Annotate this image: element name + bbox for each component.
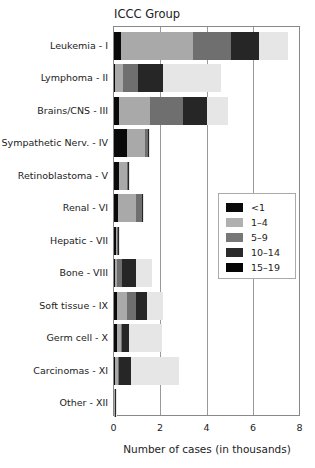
bar-segment: [114, 32, 121, 60]
bar-segment: [118, 194, 136, 222]
legend-label: 5–9: [251, 232, 268, 243]
chart-title: ICCC Group: [114, 7, 180, 21]
x-tick-label: 6: [250, 422, 256, 433]
bar-segment: [183, 97, 207, 125]
bar-row: [114, 389, 116, 417]
bar-segment: [136, 259, 152, 287]
y-axis-label: Soft tissue - IX: [39, 299, 108, 310]
bar-row: [114, 227, 120, 255]
bar-row: [114, 64, 221, 92]
bar-row: [114, 32, 288, 60]
bar-row: [114, 129, 150, 157]
bar-segment: [122, 259, 136, 287]
bar-row: [114, 324, 162, 352]
y-axis-label: Carcinomas - XI: [33, 364, 108, 375]
legend-item: <1: [226, 200, 295, 215]
legend-swatch: [226, 203, 243, 212]
bar-segment: [119, 357, 131, 385]
bar-segment: [122, 324, 129, 352]
y-axis-label: Sympathetic Nerv. - IV: [2, 137, 109, 148]
bar-segment: [127, 129, 146, 157]
bar-row: [114, 357, 179, 385]
y-axis-label: Bone - VIII: [59, 267, 108, 278]
bar-segment: [127, 292, 136, 320]
x-tick-label: 8: [296, 422, 302, 433]
bar-segment: [193, 32, 231, 60]
bar-row: [114, 162, 129, 190]
legend-label: 15–19: [251, 262, 280, 273]
bar-segment: [231, 32, 259, 60]
legend-swatch: [226, 218, 243, 227]
bar-segment: [114, 129, 127, 157]
y-axis-label: Renal - VI: [63, 202, 108, 213]
y-axis-label: Brains/CNS - III: [37, 104, 108, 115]
bar-row: [114, 97, 228, 125]
x-tick-label: 0: [110, 422, 116, 433]
y-axis-label: Hepatic - VII: [50, 234, 108, 245]
bar-row: [114, 259, 152, 287]
bar-segment: [150, 97, 183, 125]
bar-segment: [117, 292, 126, 320]
bar-segment: [259, 32, 288, 60]
bar-row: [114, 194, 144, 222]
legend-swatch: [226, 248, 243, 257]
legend-item: 10–14: [226, 245, 295, 260]
bar-segment: [119, 227, 120, 255]
legend-item: 5–9: [226, 230, 295, 245]
bar-segment: [119, 97, 150, 125]
bar-segment: [147, 292, 163, 320]
bar-segment: [131, 357, 179, 385]
x-tick-label: 4: [203, 422, 209, 433]
y-axis-label: Germ cell - X: [46, 332, 108, 343]
bar-segment: [136, 292, 146, 320]
legend-item: 1–4: [226, 215, 295, 230]
x-tick-label: 2: [157, 422, 163, 433]
legend: <11–45–910–1415–19: [218, 193, 296, 279]
legend-swatch: [226, 233, 243, 242]
legend-label: 10–14: [251, 247, 280, 258]
legend-label: 1–4: [251, 217, 268, 228]
legend-swatch: [226, 263, 243, 272]
bar-segment: [207, 97, 228, 125]
bar-segment: [123, 64, 138, 92]
legend-item: 15–19: [226, 260, 295, 275]
bar-segment: [138, 64, 164, 92]
x-axis-label: Number of cases (in thousands): [123, 443, 291, 455]
bar-segment: [129, 324, 162, 352]
legend-label: <1: [251, 202, 265, 213]
y-axis-label: Other - XII: [59, 396, 108, 407]
y-axis-label: Retinoblastoma - V: [18, 169, 108, 180]
bar-segment: [163, 64, 220, 92]
bar-segment: [121, 32, 192, 60]
y-axis-label: Leukemia - I: [50, 40, 108, 51]
bar-segment: [119, 162, 127, 190]
bar-row: [114, 292, 163, 320]
y-axis-label: Lymphoma - II: [41, 72, 108, 83]
bar-segment: [115, 64, 123, 92]
